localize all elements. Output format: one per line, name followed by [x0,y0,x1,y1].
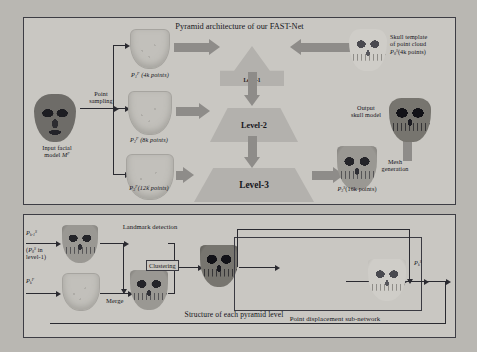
result-skull-point-cloud [337,146,377,190]
branch-arrow-level3 [113,174,125,175]
arrow-landmark-detection [100,243,124,244]
skull-template-caption: Skull template of point cloud P0S(4k poi… [390,33,452,56]
facial-point-cloud-3-label: P3F(12k points) [112,184,186,192]
sampling-arrow [80,108,114,109]
clustering-bracket-bottom [168,293,175,294]
skull-template-image [349,29,387,71]
pyramid-level-3: Level-3 [194,168,314,202]
landmark-detection-label: Landmark detection [102,223,198,231]
arrow-input-face [26,293,56,294]
level-output-label: PkS [414,259,440,267]
feedback-loop-line [50,323,446,324]
input-skull-note: (P0S in level-1) [26,247,64,261]
input-facial-model-image [34,94,76,142]
feedback-loop-right [445,281,446,324]
result-point-cloud-label: P3S(16k points) [320,185,394,193]
arrow-cloud2-to-level2 [176,107,200,116]
arrow-cloud1-to-level1 [174,43,210,52]
arrow-input-skull [26,243,56,244]
arrow-cloud3-to-level3 [176,171,184,180]
branch-arrow-level2 [113,108,125,109]
arrow-merge-down [123,245,124,289]
skip-connection-top [237,229,409,230]
input-skull-label: Pk-1S [26,229,62,237]
skip-connection-down [409,229,410,279]
arrow-level-output [412,281,446,282]
facial-point-cloud-1 [130,29,170,69]
level-input-face-image [62,273,100,311]
arrow-level1-to-level2 [248,72,257,96]
facial-point-cloud-3 [126,154,174,200]
output-skull-model-caption: Output skull model [342,104,390,119]
facial-point-cloud-2 [128,91,172,135]
arrow-into-encoder [239,267,275,268]
bottom-panel-caption: Structure of each pyramid level [154,311,314,320]
pyramid-architecture-panel: Pyramid architecture of our FAST-Net Inp… [23,17,456,205]
input-face-label: PkF [26,277,62,285]
page-title: Pyramid architecture of our FAST-Net [24,22,455,31]
pyramid-level-structure-panel: Pk-1S (P0S in level-1) PkF Landmark dete… [23,214,456,338]
output-skull-model-image [389,98,431,142]
skip-connection-left [237,229,238,267]
merged-model-image [130,270,168,310]
arrow-level3-to-result [312,171,334,180]
facial-point-cloud-1-label: P1F (4k points) [119,71,181,79]
mesh-generation-label: Mesh generation [374,158,416,173]
point-sampling-label: Point sampling [80,90,122,105]
facial-point-cloud-2-label: P2F (8k points) [117,136,181,144]
clustered-model-image [200,245,238,287]
arrow-level2-to-level3 [248,136,257,158]
input-facial-model-caption: Input facial model MF [30,144,84,159]
branch-arrow-level1 [113,45,125,46]
sampling-bus-line [113,45,114,175]
arrow-merge-in [100,293,128,294]
level-input-skull-image [62,225,98,263]
clustering-label: Clustering [146,260,179,271]
clustering-bracket-top [168,243,175,244]
